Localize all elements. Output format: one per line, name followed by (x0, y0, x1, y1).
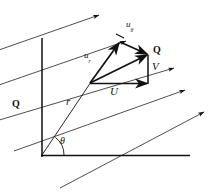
label-u-r: ur (84, 51, 91, 62)
vector-triangle (90, 34, 148, 84)
label-Q-vector: Q (153, 45, 161, 55)
u-r-vector (90, 43, 119, 83)
label-U: U (110, 86, 118, 97)
radius-vector-group (42, 82, 91, 155)
flow-line-5 (60, 112, 204, 188)
label-Q-flow: Q (12, 99, 20, 109)
flow-line-2 (0, 41, 126, 86)
u-theta-tick (116, 34, 124, 38)
figure-canvas: uθ ur Q Q V U r θ (0, 0, 218, 193)
label-r: r (66, 96, 70, 107)
radius-vector-r (42, 82, 91, 155)
label-u-theta: uθ (126, 20, 133, 31)
flow-line-4 (14, 90, 185, 151)
u-theta-vector (120, 42, 147, 54)
flow-streamlines (0, 15, 204, 188)
label-V: V (152, 61, 159, 72)
label-theta: θ (60, 136, 65, 146)
flow-line-1 (0, 15, 99, 51)
vector-diagram (0, 0, 218, 193)
